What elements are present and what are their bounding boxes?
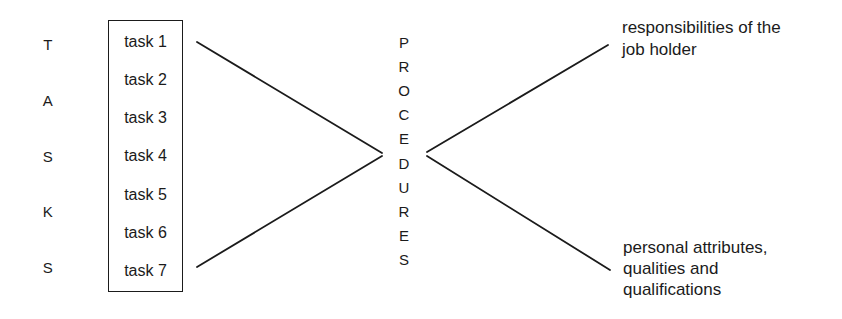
output-responsibilities: responsibilities of the job holder bbox=[622, 17, 781, 61]
tasks-letter: S bbox=[43, 148, 54, 165]
procedures-letter: R bbox=[399, 203, 410, 220]
output-responsibilities-line: job holder bbox=[622, 39, 781, 61]
procedures-letter: P bbox=[399, 34, 409, 51]
task-item: task 3 bbox=[124, 108, 167, 127]
output-personal-attributes-line: qualities and bbox=[623, 258, 768, 279]
procedures-vertical-label: P R O C E D U R E S bbox=[393, 34, 415, 268]
procedures-letter: E bbox=[399, 130, 409, 147]
output-responsibilities-line: responsibilities of the bbox=[622, 17, 781, 39]
procedures-letter: S bbox=[399, 251, 409, 268]
output-personal-attributes-line: qualifications bbox=[623, 279, 768, 300]
tasks-letter: T bbox=[43, 36, 53, 53]
tasks-vertical-label: T A S K S bbox=[38, 36, 58, 276]
procedures-letter: D bbox=[399, 155, 410, 172]
connector-line-tasks-bottom-to-procedures bbox=[197, 156, 382, 267]
output-personal-attributes-line: personal attributes, bbox=[623, 237, 768, 258]
connector-line-procedures-to-attributes bbox=[427, 156, 610, 270]
procedures-letter: C bbox=[399, 106, 410, 123]
diagram-canvas: T A S K S task 1 task 2 task 3 task 4 ta… bbox=[0, 0, 842, 319]
tasks-letter: S bbox=[43, 259, 54, 276]
task-item: task 6 bbox=[124, 223, 167, 242]
task-list-box: task 1 task 2 task 3 task 4 task 5 task … bbox=[108, 20, 183, 292]
procedures-letter: E bbox=[399, 227, 409, 244]
connector-line-tasks-top-to-procedures bbox=[197, 42, 382, 153]
output-personal-attributes: personal attributes, qualities and quali… bbox=[623, 237, 768, 300]
procedures-letter: U bbox=[399, 179, 410, 196]
task-item: task 2 bbox=[124, 70, 167, 89]
tasks-letter: A bbox=[43, 92, 54, 109]
connector-line-procedures-to-responsibilities bbox=[427, 45, 608, 152]
task-item: task 7 bbox=[124, 261, 167, 280]
task-item: task 5 bbox=[124, 185, 167, 204]
task-item: task 1 bbox=[124, 32, 167, 51]
procedures-letter: O bbox=[398, 82, 410, 99]
procedures-letter: R bbox=[399, 58, 410, 75]
tasks-letter: K bbox=[43, 203, 54, 220]
task-item: task 4 bbox=[124, 146, 167, 165]
